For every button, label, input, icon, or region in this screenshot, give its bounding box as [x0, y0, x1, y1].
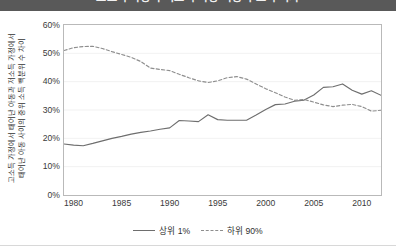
y-tick-label: 40% [32, 77, 60, 86]
y-tick-label: 50% [32, 49, 60, 58]
legend-label-bottom90: 하위 90% [227, 224, 263, 236]
y-tick-label: 20% [32, 134, 60, 143]
y-axis-title-line-1: 고소득 가정에서 태어난 아동과 저소득 가정에서 [7, 14, 17, 202]
x-tick-label: 2005 [294, 198, 334, 208]
chart-lines [64, 25, 381, 195]
chart-figure: 고소득 가정과 저소득 가정 아동의 소득 격차 고소득 가정에서 태어난 아동… [0, 0, 396, 246]
y-tick-label: 60% [32, 21, 60, 30]
x-tick-label: 1980 [54, 198, 94, 208]
legend-label-top1: 상위 1% [159, 224, 190, 236]
chart-legend: 상위 1% 하위 90% [0, 222, 396, 238]
x-tick-label: 1990 [150, 198, 190, 208]
y-axis-title: 고소득 가정에서 태어난 아동과 저소득 가정에서 태어난 아동 사이의 중위 … [0, 14, 32, 202]
y-tick-label: 30% [32, 106, 60, 115]
legend-item-top1: 상위 1% [133, 224, 190, 236]
x-tick-label: 1985 [102, 198, 142, 208]
legend-swatch-solid-icon [133, 227, 155, 234]
y-axis-tick-labels: 0%10%20%30%40%50%60% [30, 0, 60, 246]
x-axis-tick-labels: 1980198519901995200020052010 [63, 198, 382, 212]
legend-swatch-dashed-icon [201, 227, 223, 234]
series-line-sang-wi-1 [64, 84, 381, 146]
x-tick-label: 2000 [246, 198, 286, 208]
series-line-ha-wi-90 [64, 46, 381, 111]
x-tick-label: 1995 [198, 198, 238, 208]
x-tick-label: 2010 [342, 198, 382, 208]
gridlines [64, 53, 381, 166]
y-axis-title-line-2: 태어난 아동 사이의 중위 소득 백분위 수 차이 [16, 14, 26, 202]
y-tick-label: 10% [32, 162, 60, 171]
plot-area [63, 24, 382, 196]
legend-item-bottom90: 하위 90% [201, 224, 263, 236]
